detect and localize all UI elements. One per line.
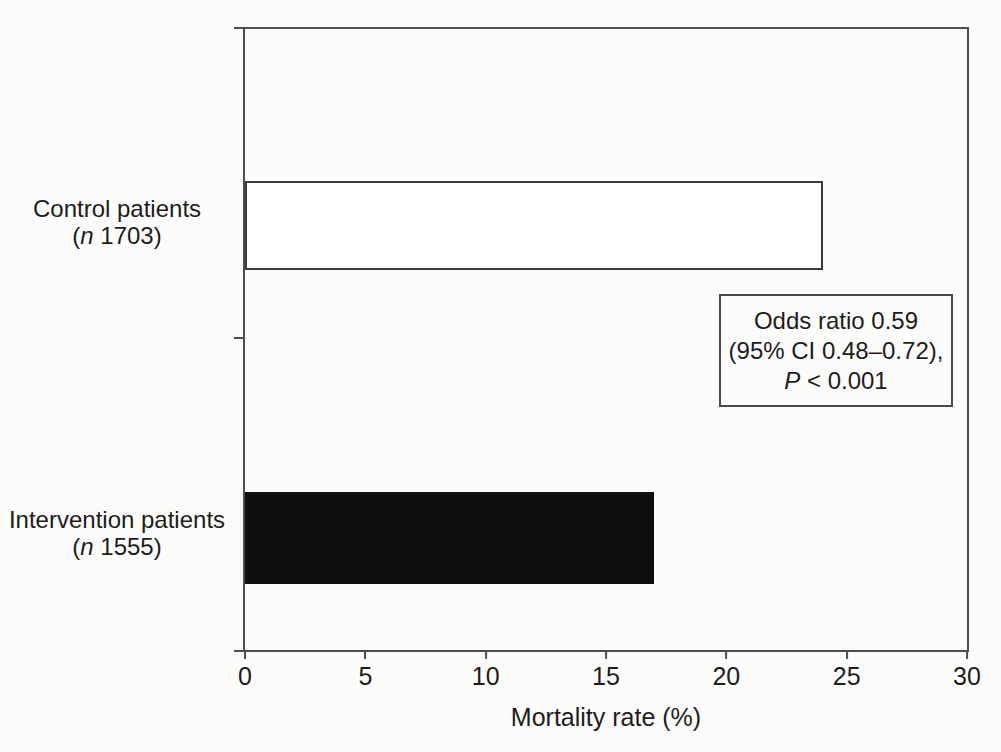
category-label-intervention: Intervention patients (n 1555) [2,506,232,560]
x-axis-tick: 30 [953,650,981,689]
x-axis-tick: 20 [712,650,740,689]
x-axis-title: Mortality rate (%) [243,702,969,732]
tick-mark [725,650,727,659]
tick-mark [605,650,607,659]
annotation-line-2: (95% CI 0.48–0.72), [729,336,944,366]
x-axis-tick: 10 [472,650,500,689]
tick-mark [846,650,848,659]
tick-mark [966,650,968,659]
bar-control-patients [245,181,823,270]
category-label-line1: Intervention patients [2,506,232,533]
y-axis-tick [234,337,245,339]
tick-mark [244,650,246,659]
annotation-line-1: Odds ratio 0.59 [754,306,918,336]
x-tick-label: 30 [953,664,981,689]
x-tick-label: 10 [472,664,500,689]
category-label-line2: (n 1703) [2,222,232,249]
x-axis-tick: 15 [592,650,620,689]
x-tick-label: 15 [592,664,620,689]
tick-mark [485,650,487,659]
figure: 0 5 10 15 20 25 30 Odds ratio 0.59 (95 [0,0,1001,752]
tick-mark [364,650,366,659]
x-tick-label: 0 [238,664,252,689]
y-axis-tick [234,27,245,29]
category-label-control: Control patients (n 1703) [2,195,232,249]
annotation-box: Odds ratio 0.59 (95% CI 0.48–0.72), P < … [719,294,953,407]
x-tick-label: 25 [833,664,861,689]
x-tick-label: 20 [712,664,740,689]
x-tick-label: 5 [358,664,372,689]
x-axis-tick: 5 [358,650,372,689]
category-label-line1: Control patients [2,195,232,222]
x-axis-tick: 25 [833,650,861,689]
bar-intervention-patients [245,492,654,584]
x-axis-tick: 0 [238,650,252,689]
annotation-line-3: P < 0.001 [784,366,887,396]
category-label-line2: (n 1555) [2,533,232,560]
